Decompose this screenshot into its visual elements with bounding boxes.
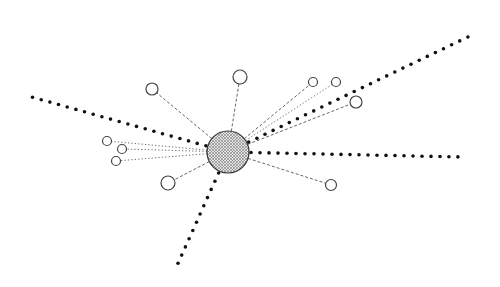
satellite-link-8: [174, 162, 209, 180]
satellite-node-8: [161, 176, 175, 190]
satellite-link-3: [246, 84, 333, 140]
satellite-link-0: [157, 93, 212, 139]
satellite-link-9: [248, 158, 326, 183]
heavy-dotted-rays: [31, 35, 470, 265]
satellite-node-6: [118, 145, 127, 154]
hub-node: [207, 131, 249, 173]
satellite-node-1: [233, 70, 247, 84]
satellite-link-1: [231, 84, 239, 131]
dotted-ray-3: [176, 171, 220, 265]
satellite-node-3: [332, 78, 341, 87]
satellite-node-0: [146, 83, 158, 95]
satellite-node-9: [326, 180, 337, 191]
satellite-link-6: [127, 149, 208, 151]
satellite-node-7: [112, 157, 121, 166]
dotted-ray-2: [249, 151, 460, 159]
dotted-ray-0: [31, 96, 208, 148]
satellite-link-2: [244, 85, 309, 139]
satellite-link-4: [248, 104, 351, 144]
hub-network-diagram: [0, 0, 500, 287]
satellite-link-7: [121, 154, 208, 161]
dotted-ray-1: [247, 35, 470, 144]
satellite-node-4: [350, 96, 362, 108]
satellite-node-5: [103, 137, 112, 146]
satellite-node-2: [309, 78, 318, 87]
